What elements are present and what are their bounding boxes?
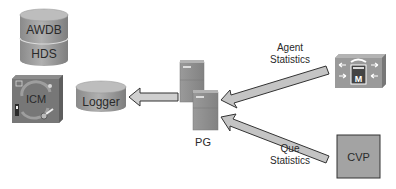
que-statistics-label-line2: Statistics	[270, 155, 310, 166]
awdb-label: AWDB	[26, 23, 62, 37]
logger-label: Logger	[82, 95, 119, 109]
logger-database: Logger	[76, 81, 126, 112]
pg-label: PG	[195, 136, 211, 148]
que-statistics-label-line1: Que	[281, 143, 300, 154]
call-manager-glyph: M	[355, 74, 363, 84]
awdb-hds-database: AWDB HDS	[20, 9, 68, 66]
cvp-label: CVP	[347, 151, 370, 163]
icm-node: ICM	[12, 75, 63, 123]
icm-label: ICM	[26, 93, 46, 105]
unified-cm-node: M	[335, 54, 386, 88]
diagram-canvas: AWDB HDS ICM Logger	[0, 0, 396, 189]
hds-label: HDS	[31, 47, 56, 61]
agent-statistics-label-line2: Statistics	[270, 54, 310, 65]
arrow-agent-statistics	[221, 66, 329, 108]
cvp-node: CVP	[337, 135, 380, 178]
pg-node: PG	[180, 60, 218, 148]
arrow-pg-to-logger	[129, 88, 178, 106]
agent-statistics-label-line1: Agent	[277, 42, 303, 53]
server-icon	[193, 90, 218, 130]
